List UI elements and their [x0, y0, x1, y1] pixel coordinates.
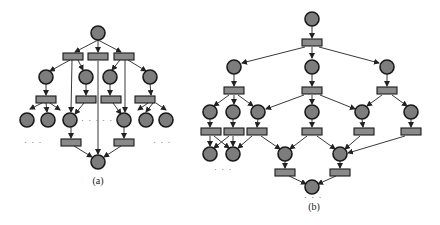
transition [401, 128, 421, 135]
place [139, 113, 153, 127]
transition [275, 169, 295, 176]
transitions-a [36, 53, 155, 146]
place [226, 105, 240, 119]
ellipsis: · · · [102, 115, 121, 125]
place [305, 12, 319, 26]
place [305, 60, 319, 74]
transition [377, 87, 397, 94]
place [159, 113, 173, 127]
transition [114, 139, 134, 146]
place [41, 113, 55, 127]
transition [135, 96, 155, 103]
place [251, 105, 265, 119]
caption-a: (a) [92, 175, 103, 187]
transition [76, 96, 96, 103]
place [91, 155, 105, 169]
place [355, 105, 369, 119]
caption-b: (b) [308, 201, 320, 213]
transition [247, 128, 267, 135]
transition [302, 39, 322, 46]
transition [101, 96, 121, 103]
ellipsis: · · · [153, 137, 172, 147]
transition [354, 128, 374, 135]
transition [224, 87, 244, 94]
petri-net-figure: · · · · · · · · · · · · (a) [0, 0, 440, 225]
ellipsis: · · · [24, 137, 43, 147]
place [380, 60, 394, 74]
transition [302, 87, 322, 94]
transition [61, 139, 81, 146]
subfigure-b: · · · · · · (b) [201, 12, 421, 213]
transition [330, 169, 350, 176]
place [404, 105, 418, 119]
transition [201, 128, 221, 135]
place [91, 26, 105, 40]
place [305, 105, 319, 119]
ellipsis: · · · [214, 164, 233, 174]
transition [36, 96, 56, 103]
place [203, 105, 217, 119]
subfigure-a: · · · · · · · · · · · · (a) [20, 26, 173, 187]
place [333, 147, 347, 161]
place [79, 70, 93, 84]
transition [224, 128, 244, 135]
place [227, 60, 241, 74]
transition [63, 53, 83, 60]
place [226, 147, 240, 161]
place [203, 147, 217, 161]
transition [302, 128, 322, 135]
place [103, 70, 117, 84]
place [143, 70, 157, 84]
place [20, 113, 34, 127]
place [39, 70, 53, 84]
transition [88, 53, 108, 60]
transition [114, 53, 134, 60]
ellipsis: · · · [81, 115, 100, 125]
place [278, 147, 292, 161]
place [63, 113, 77, 127]
